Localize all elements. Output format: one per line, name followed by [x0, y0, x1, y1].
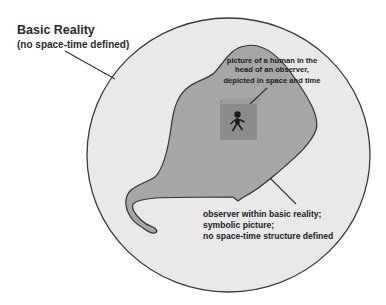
basic-reality-pointer-line: [65, 51, 115, 79]
inner-picture-label-line: picture of a human in the: [202, 56, 342, 65]
basic-reality-subtitle: (no space-time defined): [17, 39, 129, 50]
inner-picture-label-line: head of an observer,: [202, 65, 342, 74]
observer-label: observer within basic reality; symbolic …: [203, 209, 333, 242]
observer-label-line: symbolic picture;: [203, 220, 333, 231]
inner-picture-label-line: depicted in space and time: [202, 76, 342, 85]
basic-reality-title: Basic Reality: [17, 23, 95, 37]
inner-picture-label: picture of a human in the head of an obs…: [202, 56, 342, 85]
observer-label-line: observer within basic reality;: [203, 209, 333, 220]
observer-label-line: no space-time structure defined: [203, 231, 333, 242]
